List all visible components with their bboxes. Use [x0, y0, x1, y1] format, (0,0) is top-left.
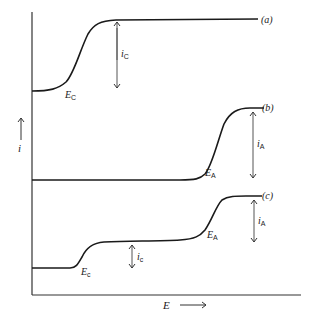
- curve-a-label: (a): [261, 14, 273, 26]
- curve-b-label: (b): [262, 102, 274, 114]
- curve-c: (c) Ec ic EA iA: [32, 190, 274, 278]
- curve-a-label-text: (a): [261, 14, 273, 26]
- curve-b: (b) EA iA: [32, 102, 274, 180]
- i-a-label-c: iA: [258, 215, 266, 227]
- i-c-label-c: ic: [137, 251, 144, 263]
- curve-a-line: [32, 19, 258, 91]
- y-axis-label-group: i: [18, 118, 21, 154]
- curve-c-line: [32, 196, 262, 268]
- curve-a: (a) EC iC: [32, 14, 273, 101]
- e-a-label-c: EA: [206, 229, 218, 241]
- current-potential-diagram: i E (a) EC iC (b) EA iA: [0, 0, 310, 317]
- curve-c-label: (c): [262, 190, 274, 202]
- e-a-label-b: EA: [204, 167, 216, 179]
- curve-b-line: [32, 108, 264, 180]
- x-axis-label-group: E: [162, 299, 206, 311]
- e-c-label-c: Ec: [80, 266, 91, 278]
- i-c-label-a: iC: [121, 48, 129, 60]
- y-axis-label: i: [18, 142, 21, 154]
- x-axis-label: E: [162, 299, 170, 311]
- i-a-label-b: iA: [257, 138, 265, 150]
- e-c-label-a: EC: [64, 89, 76, 101]
- axes: [32, 12, 301, 295]
